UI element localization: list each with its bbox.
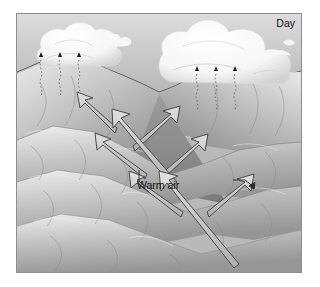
illustration-canvas <box>17 14 301 272</box>
label-day: Day <box>276 18 295 29</box>
illustration-frame: Day Warm air <box>16 13 302 273</box>
figure-daytime-valley-wind: Day Warm air <box>0 0 320 287</box>
label-warm-air: Warm air <box>137 180 179 191</box>
